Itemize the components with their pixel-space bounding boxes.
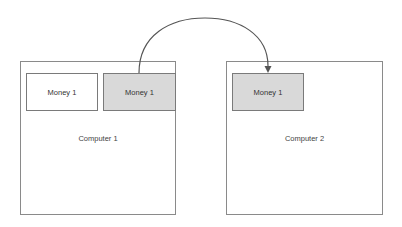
money-label: Money 1	[254, 88, 283, 97]
computer-2-money: Money 1	[232, 73, 304, 111]
computer-1-money-original: Money 1	[26, 73, 98, 111]
money-label: Money 1	[48, 88, 77, 97]
computer-1-money-copy: Money 1	[103, 73, 176, 111]
computer-1-label: Computer 1	[21, 134, 175, 143]
computer-2-label: Computer 2	[227, 134, 382, 143]
money-label: Money 1	[125, 88, 154, 97]
